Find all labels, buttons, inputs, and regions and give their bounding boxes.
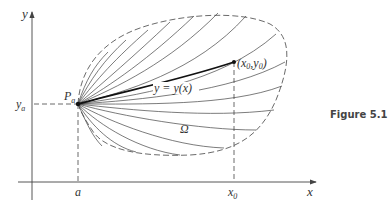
P-a-label: Pa [63,89,75,105]
a-label: a [75,185,81,199]
x0-label: x0 [227,185,237,201]
y-axis-label: y [20,6,28,21]
point-P-a [76,102,80,106]
x-axis-label: x [306,184,313,199]
curve-label: y = y(x) [153,81,192,95]
figure-caption: Figure 5.1 [330,109,387,120]
endpoint-label: (x0,y0) [237,56,267,71]
y-a-label: ya [15,97,25,113]
region-label: Ω [180,122,189,136]
point-x0-y0 [232,60,236,64]
figure-canvas: y x ya a x0 Pa (x0,y0) y = y(x) Ω Figure… [0,0,391,213]
